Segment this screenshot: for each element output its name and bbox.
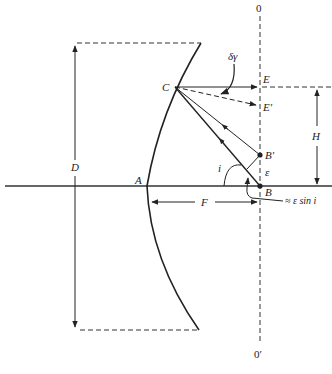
label-eps-sin-i: ≈ ε sin i [285,195,317,206]
label-epsilon: ε [265,166,270,178]
label-C: C [162,81,170,93]
label-E-prime: E′ [262,101,273,113]
ray-C-E-prime [175,87,256,105]
label-B-prime: B′ [265,149,275,161]
delta-gamma-pointer [221,64,234,94]
label-i: i [218,162,221,174]
optics-diagram: 0 0′ D A C E E′ δγ B′ B ε i ≈ ε sin i F … [0,0,332,374]
label-top-axis: 0 [256,2,262,14]
angle-i-arc [224,165,241,186]
label-bottom-axis: 0′ [254,348,262,360]
label-A: A [134,174,142,186]
label-E: E [262,73,270,85]
perpendicular-B-prime [247,155,260,169]
label-B: B [265,186,272,198]
ray-B-prime-C [175,87,260,155]
point-B-prime [257,152,262,157]
label-F: F [200,196,208,208]
ray-B-prime-C-arrow [224,126,228,129]
label-delta-gamma: δγ [228,50,238,62]
label-D: D [70,161,79,173]
ray-B-C-arrow [221,140,225,145]
point-B [257,183,262,188]
label-H: H [311,130,321,142]
